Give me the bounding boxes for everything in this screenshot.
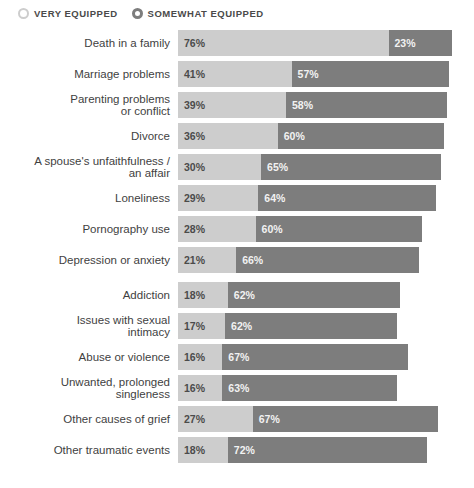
chart-row-label: Other traumatic events <box>0 444 178 457</box>
chart-bar-track: 28%60% <box>178 216 474 242</box>
legend-label-very-equipped: VERY EQUIPPED <box>34 8 118 19</box>
chart-row: Death in a family76%23% <box>0 30 474 56</box>
chart-row-label: Other causes of grief <box>0 413 178 426</box>
bar-value-somewhat-equipped: 67% <box>253 413 280 425</box>
bar-segment-somewhat-equipped: 58% <box>286 92 447 118</box>
legend-item-very-equipped[interactable]: VERY EQUIPPED <box>18 8 118 19</box>
chart-row: Addiction18%62% <box>0 282 474 308</box>
bar-segment-very-equipped: 27% <box>178 406 253 432</box>
bar-value-somewhat-equipped: 63% <box>222 382 249 394</box>
chart-row: Other causes of grief27%67% <box>0 406 474 432</box>
bar-segment-very-equipped: 29% <box>178 185 258 211</box>
chart-bar-track: 16%63% <box>178 375 474 401</box>
bar-segment-somewhat-equipped: 60% <box>256 216 422 242</box>
bar-segment-somewhat-equipped: 60% <box>278 123 444 149</box>
chart-row-label: Death in a family <box>0 37 178 50</box>
chart-row-label: Addiction <box>0 289 178 302</box>
bar-value-very-equipped: 17% <box>178 320 205 332</box>
chart-row-label: Abuse or violence <box>0 351 178 364</box>
bar-segment-very-equipped: 41% <box>178 61 292 87</box>
chart-bar-track: 21%66% <box>178 247 474 273</box>
bar-segment-somewhat-equipped: 57% <box>292 61 450 87</box>
bar-segment-somewhat-equipped: 62% <box>225 313 397 339</box>
bar-value-very-equipped: 18% <box>178 289 205 301</box>
bar-value-very-equipped: 39% <box>178 99 205 111</box>
chart-bar-track: 18%72% <box>178 437 474 463</box>
chart-row: A spouse's unfaithfulness / an affair30%… <box>0 154 474 180</box>
legend-item-somewhat-equipped[interactable]: SOMEWHAT EQUIPPED <box>132 8 264 19</box>
chart-row: Other traumatic events18%72% <box>0 437 474 463</box>
bar-value-very-equipped: 29% <box>178 192 205 204</box>
bar-segment-somewhat-equipped: 67% <box>222 344 408 370</box>
bar-value-very-equipped: 41% <box>178 68 205 80</box>
bar-value-very-equipped: 21% <box>178 254 205 266</box>
bar-value-very-equipped: 16% <box>178 382 205 394</box>
chart-row-label: Depression or anxiety <box>0 254 178 267</box>
bar-value-very-equipped: 76% <box>178 37 205 49</box>
bar-segment-very-equipped: 30% <box>178 154 261 180</box>
bar-value-very-equipped: 30% <box>178 161 205 173</box>
bar-value-somewhat-equipped: 58% <box>286 99 313 111</box>
chart-row: Depression or anxiety21%66% <box>0 247 474 273</box>
bar-segment-very-equipped: 16% <box>178 375 222 401</box>
chart-row-label: Issues with sexual intimacy <box>0 314 178 339</box>
bar-segment-somewhat-equipped: 72% <box>228 437 427 463</box>
bar-segment-very-equipped: 76% <box>178 30 389 56</box>
bar-value-somewhat-equipped: 66% <box>236 254 263 266</box>
bar-segment-somewhat-equipped: 65% <box>261 154 441 180</box>
chart-bar-track: 29%64% <box>178 185 474 211</box>
bar-segment-somewhat-equipped: 62% <box>228 282 400 308</box>
bar-segment-very-equipped: 18% <box>178 282 228 308</box>
chart-row-label: Unwanted, prolonged singleness <box>0 376 178 401</box>
bar-value-somewhat-equipped: 57% <box>292 68 319 80</box>
bar-value-somewhat-equipped: 60% <box>278 130 305 142</box>
bar-segment-somewhat-equipped: 66% <box>236 247 419 273</box>
bar-value-somewhat-equipped: 60% <box>256 223 283 235</box>
stacked-bar-chart: Death in a family76%23%Marriage problems… <box>0 20 474 463</box>
bar-value-very-equipped: 36% <box>178 130 205 142</box>
chart-bar-track: 39%58% <box>178 92 474 118</box>
bar-value-somewhat-equipped: 65% <box>261 161 288 173</box>
chart-bar-track: 16%67% <box>178 344 474 370</box>
chart-row: Abuse or violence16%67% <box>0 344 474 370</box>
chart-row-label: Divorce <box>0 130 178 143</box>
chart-row: Parenting problems or conflict39%58% <box>0 92 474 118</box>
bar-value-somewhat-equipped: 62% <box>225 320 252 332</box>
chart-row-label: Parenting problems or conflict <box>0 93 178 118</box>
bar-value-somewhat-equipped: 62% <box>228 289 255 301</box>
chart-legend: VERY EQUIPPED SOMEWHAT EQUIPPED <box>0 0 474 20</box>
chart-row: Pornography use28%60% <box>0 216 474 242</box>
chart-row: Issues with sexual intimacy17%62% <box>0 313 474 339</box>
bar-segment-very-equipped: 21% <box>178 247 236 273</box>
chart-row: Marriage problems41%57% <box>0 61 474 87</box>
circle-outline-icon <box>18 8 29 19</box>
bar-segment-very-equipped: 17% <box>178 313 225 339</box>
bar-segment-somewhat-equipped: 63% <box>222 375 397 401</box>
chart-bar-track: 18%62% <box>178 282 474 308</box>
chart-row: Unwanted, prolonged singleness16%63% <box>0 375 474 401</box>
chart-bar-track: 41%57% <box>178 61 474 87</box>
circle-outline-icon <box>132 8 143 19</box>
bar-value-very-equipped: 16% <box>178 351 205 363</box>
chart-row-label: Loneliness <box>0 192 178 205</box>
bar-value-very-equipped: 28% <box>178 223 205 235</box>
chart-row-label: Pornography use <box>0 223 178 236</box>
chart-row: Loneliness29%64% <box>0 185 474 211</box>
bar-value-very-equipped: 27% <box>178 413 205 425</box>
bar-segment-very-equipped: 18% <box>178 437 228 463</box>
chart-bar-track: 17%62% <box>178 313 474 339</box>
bar-segment-very-equipped: 39% <box>178 92 286 118</box>
bar-segment-very-equipped: 16% <box>178 344 222 370</box>
chart-bar-track: 76%23% <box>178 30 474 56</box>
bar-segment-very-equipped: 36% <box>178 123 278 149</box>
bar-segment-somewhat-equipped: 64% <box>258 185 435 211</box>
chart-bar-track: 30%65% <box>178 154 474 180</box>
bar-value-somewhat-equipped: 67% <box>222 351 249 363</box>
chart-bar-track: 36%60% <box>178 123 474 149</box>
bar-value-very-equipped: 18% <box>178 444 205 456</box>
chart-row-label: A spouse's unfaithfulness / an affair <box>0 155 178 180</box>
bar-segment-somewhat-equipped: 67% <box>253 406 439 432</box>
chart-row: Divorce36%60% <box>0 123 474 149</box>
chart-row-label: Marriage problems <box>0 68 178 81</box>
bar-segment-very-equipped: 28% <box>178 216 256 242</box>
